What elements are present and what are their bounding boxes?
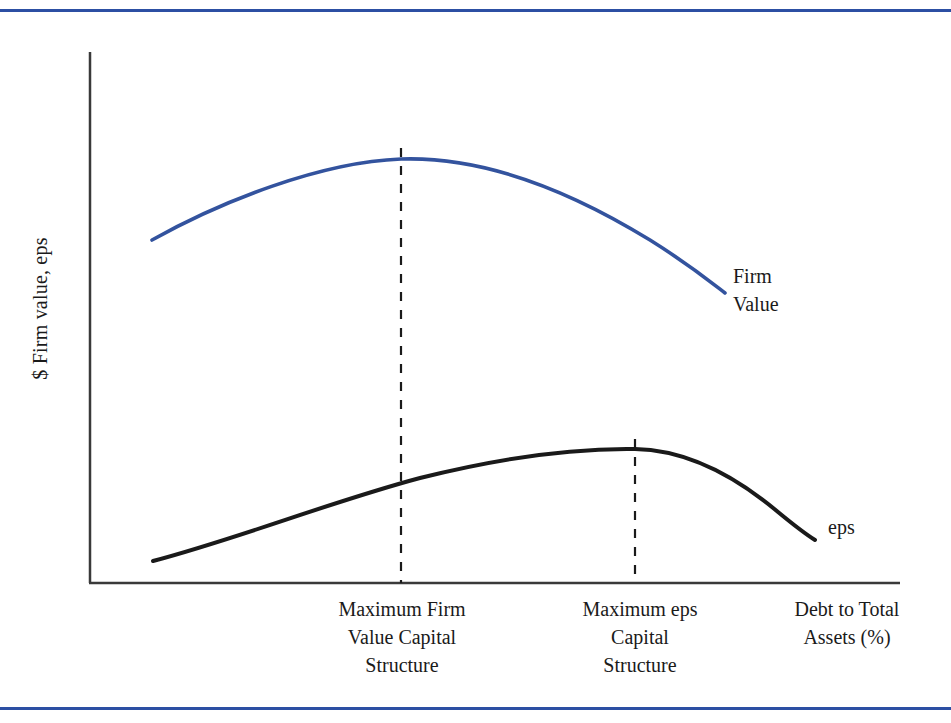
curve-label-firm-value-line2: Value — [733, 290, 779, 318]
x-axis-title: Debt to Total Assets (%) — [752, 595, 942, 651]
curve-firm-value — [152, 159, 725, 293]
figure-page: $ Firm value, eps Maximum Firm Value Cap… — [0, 0, 951, 723]
curve-label-eps: eps — [828, 513, 855, 541]
x-tick-label-max-firm-value-line3: Structure — [297, 651, 507, 679]
x-axis-title-line1: Debt to Total — [752, 595, 942, 623]
x-axis-title-line2: Assets (%) — [752, 623, 942, 651]
bottom-divider-rule — [0, 707, 951, 710]
curve-eps — [153, 449, 815, 561]
x-tick-label-max-eps-line3: Structure — [540, 651, 740, 679]
curve-label-firm-value: Firm Value — [733, 262, 779, 318]
x-tick-label-max-firm-value: Maximum Firm Value Capital Structure — [297, 595, 507, 679]
x-tick-label-max-eps-line1: Maximum eps — [540, 595, 740, 623]
y-axis-label: $ Firm value, eps — [29, 209, 52, 409]
x-tick-label-max-eps-line2: Capital — [540, 623, 740, 651]
x-tick-label-max-eps: Maximum eps Capital Structure — [540, 595, 740, 679]
x-tick-label-max-firm-value-line1: Maximum Firm — [297, 595, 507, 623]
curve-label-firm-value-line1: Firm — [733, 262, 779, 290]
x-tick-label-max-firm-value-line2: Value Capital — [297, 623, 507, 651]
chart-figure: $ Firm value, eps Maximum Firm Value Cap… — [0, 12, 951, 706]
